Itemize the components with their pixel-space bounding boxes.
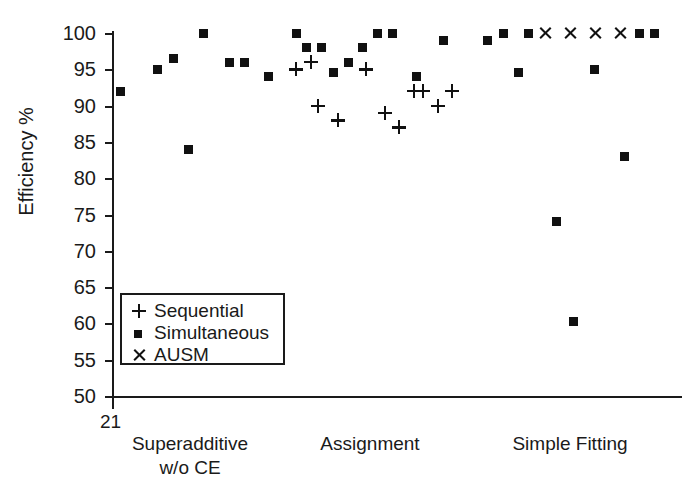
data-point-cross	[613, 26, 627, 40]
legend-label: Simultaneous	[154, 323, 269, 342]
data-point-square	[344, 58, 353, 67]
x-axis-spine	[112, 396, 682, 398]
data-point-plus	[331, 113, 345, 127]
data-point-plus	[392, 120, 406, 134]
y-axis-label: Efficiency %	[15, 52, 38, 272]
data-point-plus	[416, 84, 430, 98]
data-point-square	[302, 43, 311, 52]
x-axis-category-label: Assignment	[260, 432, 480, 456]
data-point-square	[199, 29, 208, 38]
data-point-plus	[289, 62, 303, 76]
data-point-plus	[431, 99, 445, 113]
y-axis-tick-label: 50	[50, 386, 96, 406]
data-point-square	[240, 58, 249, 67]
y-axis-tick-label: 65	[50, 277, 96, 297]
data-point-square	[569, 317, 578, 326]
data-point-plus	[304, 55, 318, 69]
legend-label: AUSM	[154, 345, 209, 364]
y-axis-tick-label: 55	[50, 350, 96, 370]
category-label-line2: w/o CE	[80, 456, 300, 480]
data-point-square	[620, 152, 629, 161]
data-point-square	[264, 72, 273, 81]
data-point-square	[169, 54, 178, 63]
data-point-square	[499, 29, 508, 38]
chart-legend: SequentialSimultaneousAUSM	[120, 293, 285, 365]
data-point-square	[412, 72, 421, 81]
y-axis-tick-label: 70	[50, 241, 96, 261]
legend-symbol-square-icon	[130, 324, 148, 342]
y-axis-tick-label: 90	[50, 96, 96, 116]
legend-item-simultaneous: Simultaneous	[130, 321, 269, 344]
y-axis-tick-label: 95	[50, 59, 96, 79]
data-point-square	[483, 36, 492, 45]
data-point-square	[373, 29, 382, 38]
legend-item-sequential: Sequential	[130, 299, 244, 322]
legend-glyph	[132, 348, 146, 362]
data-point-square	[590, 65, 599, 74]
y-axis-spine	[112, 31, 114, 398]
data-point-plus	[445, 84, 459, 98]
data-point-cross	[563, 26, 577, 40]
legend-symbol-cross-icon	[130, 346, 148, 364]
data-point-plus	[359, 62, 373, 76]
y-axis-tick-label: 100	[50, 23, 96, 43]
data-point-square	[514, 68, 523, 77]
data-point-square	[116, 87, 125, 96]
data-point-cross	[538, 26, 552, 40]
legend-label: Sequential	[154, 301, 244, 320]
data-point-square	[552, 217, 561, 226]
data-point-square	[524, 29, 533, 38]
data-point-square	[225, 58, 234, 67]
data-point-cross	[588, 26, 602, 40]
x-axis-category-label: Simple Fitting	[460, 432, 680, 456]
data-point-square	[184, 145, 193, 154]
data-point-square	[635, 29, 644, 38]
data-point-square	[439, 36, 448, 45]
category-label-line1: Simple Fitting	[460, 432, 680, 456]
category-label-line1: Assignment	[260, 432, 480, 456]
y-axis-tick-label: 60	[50, 313, 96, 333]
data-point-plus	[407, 84, 421, 98]
data-point-square	[329, 68, 338, 77]
data-point-square	[292, 29, 301, 38]
data-point-plus	[311, 99, 325, 113]
x-axis-origin-label: 21	[100, 412, 121, 431]
y-axis-tick-label: 85	[50, 132, 96, 152]
data-point-plus	[378, 106, 392, 120]
legend-item-ausm: AUSM	[130, 343, 209, 366]
legend-glyph	[132, 304, 146, 318]
scatter-plot-figure: Efficiency % 50556065707580859095100 21 …	[0, 0, 693, 500]
data-point-square	[388, 29, 397, 38]
data-point-square	[153, 65, 162, 74]
data-point-square	[650, 29, 659, 38]
legend-symbol-plus-icon	[130, 302, 148, 320]
x-axis-origin-tick	[112, 383, 114, 409]
data-point-square	[358, 43, 367, 52]
y-axis-tick-label: 75	[50, 205, 96, 225]
data-point-square	[317, 43, 326, 52]
y-axis-tick-label: 80	[50, 168, 96, 188]
legend-glyph	[134, 330, 142, 338]
